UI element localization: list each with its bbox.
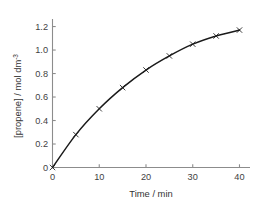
- y-tick-label: 1.0: [35, 45, 48, 55]
- y-tick-label: 1.2: [35, 22, 48, 32]
- x-tick-label: 10: [94, 172, 104, 182]
- x-tick-label: 30: [188, 172, 198, 182]
- y-tick-label: 0: [43, 163, 48, 173]
- concentration-vs-time-chart: 00.20.40.60.81.01.2 010203040 Time / min…: [0, 0, 265, 208]
- x-axis-title: Time / min: [129, 188, 172, 199]
- y-axis-title-superscript: -3: [12, 54, 19, 60]
- y-tick-label: 0.4: [35, 116, 48, 126]
- y-axis-title: [propene] / mol dm-3: [12, 54, 23, 138]
- y-axis-title-text: [propene] / mol dm: [12, 60, 23, 138]
- x-tick-label: 0: [50, 172, 55, 182]
- y-tick-label: 0.8: [35, 69, 48, 79]
- y-tick-label: 0.6: [35, 92, 48, 102]
- y-tick-label: 0.2: [35, 139, 48, 149]
- chart-container: 00.20.40.60.81.01.2 010203040 Time / min…: [0, 0, 265, 208]
- x-tick-label: 20: [141, 172, 151, 182]
- x-tick-label: 40: [234, 172, 244, 182]
